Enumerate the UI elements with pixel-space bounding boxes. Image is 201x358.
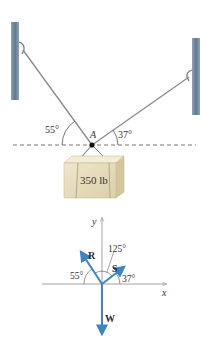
free-body-diagram: x y R S W 55° 37° 125° <box>42 216 167 334</box>
vector-w-label: W <box>105 313 115 324</box>
between-angle-arc <box>95 271 112 276</box>
right-angle-label: 37° <box>118 129 132 140</box>
r-angle-arc <box>84 269 92 284</box>
load-label: 350 lb <box>80 174 108 186</box>
y-axis-label: y <box>91 216 97 227</box>
left-angle-label: 55° <box>45 124 59 135</box>
diagram-canvas: 55° A 37° 350 lb x y <box>0 0 201 358</box>
s-angle-label: 37° <box>122 274 136 284</box>
left-angle-arc <box>62 121 75 145</box>
vector-s-label: S <box>112 263 118 274</box>
load-box: 350 lb <box>64 156 124 198</box>
vector-r-label: R <box>88 250 96 261</box>
r-angle-label: 55° <box>70 271 84 281</box>
point-a <box>89 142 94 147</box>
x-axis-label: x <box>161 287 167 298</box>
right-wall <box>192 38 200 115</box>
point-a-label: A <box>89 129 97 140</box>
between-angle-label: 125° <box>108 244 126 254</box>
right-rope <box>92 77 189 145</box>
left-wall <box>11 22 19 100</box>
right-hook-icon <box>187 70 192 81</box>
top-diagram: 55° A 37° 350 lb <box>11 22 200 198</box>
s-angle-arc <box>116 273 120 284</box>
left-hook-icon <box>19 42 24 54</box>
